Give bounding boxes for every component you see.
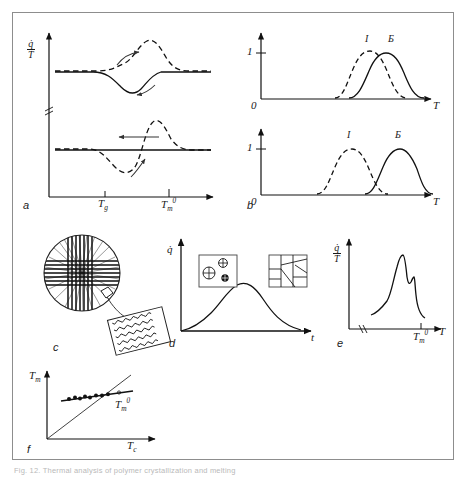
panel-b-bottom-curve-I — [317, 149, 388, 194]
panel-e-melting-curve — [371, 255, 425, 318]
figure-caption: Fig. 12. Thermal analysis of polymer cry… — [14, 466, 444, 475]
panel-b-bottom-curve-B-label: Б — [395, 129, 401, 140]
panel-f-y-axis-label: Tm — [29, 369, 41, 384]
panel-b-top-x-axis-label: T — [433, 99, 439, 111]
panel-f-x-axis-label: Tc — [127, 439, 136, 454]
panel-a-y-axis-label: q̇ Ṫ — [27, 39, 35, 60]
panel-b-top-curve-B-label: Б — [388, 33, 394, 44]
panel-a-arrow-lower-curved — [131, 159, 145, 177]
panel-a-lower-trace — [55, 120, 211, 172]
callout-line — [107, 297, 125, 317]
panel-d-label: d — [169, 337, 175, 349]
panel-a-plot — [21, 19, 221, 215]
panel-b-bottom-x-axis-label: T — [433, 195, 439, 207]
inset-impingement — [269, 255, 307, 287]
panel-c-label: c — [53, 341, 59, 353]
panel-d-plot — [161, 225, 321, 357]
panel-a-tick-label-tg: Tg — [98, 197, 108, 212]
panel-e: q̇ Ṫ Tm0 T e — [319, 225, 451, 357]
panel-f: Tm — [21, 363, 181, 459]
panel-b-top-plot — [225, 19, 450, 115]
panel-e-x-axis-label: T — [439, 325, 445, 337]
panel-b-bottom-curve-I-label: I — [347, 129, 350, 140]
panel-a-upper-heating-trace — [55, 40, 211, 71]
panel-f-annotation-tm0: Tm0 — [115, 397, 130, 413]
panel-c-drawing — [27, 225, 167, 357]
panel-b-top-y-tick-label: 1 — [247, 45, 253, 57]
panel-b-top-origin-label: 0 — [251, 99, 257, 111]
panel-b-bottom-curve-B — [365, 149, 433, 194]
panel-d-exotherm-curve — [181, 283, 301, 331]
panel-a-label: a — [23, 199, 29, 211]
panel-b-label: b — [247, 199, 253, 211]
panel-a-arrow-up-heating — [117, 52, 139, 65]
panel-a-upper-cooling-trace — [55, 72, 211, 93]
panel-a-tick-label-tm0: Tm0 — [161, 197, 176, 213]
panel-d-x-axis-label: t — [311, 331, 314, 343]
panel-e-tick-label-tm0: Tm0 — [413, 329, 428, 345]
panel-d-y-axis-label: q̇ — [167, 243, 173, 255]
panel-f-label: f — [27, 443, 30, 455]
panel-a-y-denominator: Ṫ — [27, 50, 35, 60]
panel-e-label: e — [337, 337, 343, 349]
panel-c: c — [27, 225, 167, 357]
panel-b: 1 0 T I Б 1 0 T I Б b — [225, 19, 450, 215]
panel-b-top-curve-I-label: I — [365, 33, 368, 44]
figure-frame: q̇ Ṫ — [12, 12, 454, 460]
panel-b-top-curve-B — [349, 53, 424, 98]
panel-d: q̇ — [161, 225, 321, 357]
panel-f-plot — [21, 363, 181, 459]
panel-a: q̇ Ṫ — [21, 19, 221, 215]
inset-nucleation — [199, 255, 237, 287]
panel-e-y-denominator: Ṫ — [333, 254, 341, 264]
panel-e-y-axis-label: q̇ Ṫ — [333, 243, 341, 264]
panel-b-bottom-plot — [225, 115, 450, 211]
panel-b-bottom-y-tick-label: 1 — [247, 141, 253, 153]
